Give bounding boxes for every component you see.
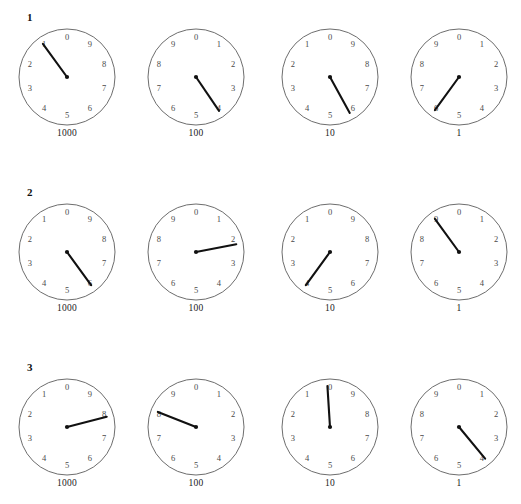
- dial-digit: 9: [351, 214, 355, 224]
- dial-digit: 0: [194, 32, 198, 42]
- dial-digit: 9: [351, 39, 355, 49]
- dial-digit: 5: [65, 110, 69, 120]
- dial-digit: 8: [157, 59, 161, 69]
- dial-digit: 6: [171, 453, 175, 463]
- dial-digit: 4: [217, 453, 222, 463]
- dial-digit: 5: [457, 110, 461, 120]
- meter-dial[interactable]: 01234567891000: [17, 377, 117, 501]
- dial-face-graphic: 0123456789: [409, 27, 509, 127]
- dial-digit: 3: [28, 258, 32, 268]
- dial-digit: 3: [28, 83, 32, 93]
- meter-dial[interactable]: 01234567891000: [17, 202, 117, 326]
- dial-digit: 7: [365, 258, 369, 268]
- dial-place-value-caption: 1: [409, 128, 509, 139]
- dial-digit: 2: [231, 234, 235, 244]
- dial-hub: [194, 425, 198, 429]
- dial-digit: 1: [42, 389, 46, 399]
- dial-digit: 3: [494, 433, 498, 443]
- meter-dial[interactable]: 01234567891000: [17, 27, 117, 151]
- dial-digit: 3: [494, 258, 498, 268]
- meter-dial[interactable]: 01234567891: [409, 377, 509, 501]
- dial-digit: 1: [305, 39, 309, 49]
- dial-digit: 9: [88, 39, 92, 49]
- meter-dial-worksheet: 1012345678910000123456789100012345678910…: [0, 0, 521, 504]
- meter-dial[interactable]: 01234567891: [409, 27, 509, 151]
- dial-digit: 1: [217, 389, 221, 399]
- dial-digit: 9: [434, 39, 438, 49]
- dial-digit: 2: [291, 234, 295, 244]
- dial-digit: 8: [365, 59, 369, 69]
- meter-dial[interactable]: 01234567891: [409, 202, 509, 326]
- meter-dial[interactable]: 012345678910: [280, 27, 380, 151]
- dial-digit: 0: [457, 382, 461, 392]
- meter-dial[interactable]: 012345678910: [280, 377, 380, 501]
- dial-digit: 4: [42, 103, 47, 113]
- dial-digit: 7: [102, 258, 106, 268]
- dial-hub: [194, 250, 198, 254]
- dial-digit: 7: [420, 433, 424, 443]
- dial-digit: 7: [420, 258, 424, 268]
- meter-dial[interactable]: 0123456789100: [146, 377, 246, 501]
- dial-hub: [457, 425, 461, 429]
- dial-hub: [328, 75, 332, 79]
- dial-digit: 1: [480, 214, 484, 224]
- meter-row: 3012345678910000123456789100012345678910…: [0, 356, 521, 504]
- dial-digit: 0: [457, 32, 461, 42]
- dial-place-value-caption: 1000: [17, 478, 117, 489]
- dial-face-graphic: 0123456789: [280, 202, 380, 302]
- dial-digit: 1: [217, 214, 221, 224]
- meter-dial[interactable]: 0123456789100: [146, 27, 246, 151]
- dial-digit: 9: [88, 389, 92, 399]
- dial-digit: 1: [42, 214, 46, 224]
- dial-digit: 3: [291, 83, 295, 93]
- dial-digit: 7: [157, 433, 161, 443]
- dial-digit: 2: [494, 59, 498, 69]
- dial-face-graphic: 0123456789: [280, 27, 380, 127]
- dial-digit: 4: [480, 103, 485, 113]
- dial-digit: 4: [217, 278, 222, 288]
- dial-digit: 6: [434, 453, 438, 463]
- meter-dial[interactable]: 0123456789100: [146, 202, 246, 326]
- dial-digit: 5: [194, 460, 198, 470]
- dial-digit: 9: [171, 389, 175, 399]
- dial-digit: 2: [291, 409, 295, 419]
- dial-digit: 6: [171, 103, 175, 113]
- dial-digit: 0: [457, 207, 461, 217]
- dial-place-value-caption: 10: [280, 303, 380, 314]
- dial-digit: 8: [157, 234, 161, 244]
- dial-digit: 8: [102, 59, 106, 69]
- dial-digit: 5: [457, 285, 461, 295]
- dial-digit: 6: [171, 278, 175, 288]
- dial-digit: 8: [420, 409, 424, 419]
- dial-hub: [65, 75, 69, 79]
- dial-digit: 7: [157, 83, 161, 93]
- meter-dial[interactable]: 012345678910: [280, 202, 380, 326]
- dial-digit: 7: [102, 433, 106, 443]
- dial-digit: 0: [194, 382, 198, 392]
- dial-digit: 2: [291, 59, 295, 69]
- dial-hub: [328, 250, 332, 254]
- dial-face-graphic: 0123456789: [17, 27, 117, 127]
- dial-digit: 4: [42, 278, 47, 288]
- dial-digit: 6: [88, 453, 92, 463]
- dial-hub: [328, 425, 332, 429]
- dial-digit: 1: [480, 39, 484, 49]
- dial-digit: 1: [217, 39, 221, 49]
- dial-digit: 7: [102, 83, 106, 93]
- dial-digit: 8: [420, 234, 424, 244]
- dial-digit: 2: [231, 59, 235, 69]
- meter-row: 1012345678910000123456789100012345678910…: [0, 6, 521, 181]
- dial-hub: [65, 250, 69, 254]
- dial-digit: 7: [365, 83, 369, 93]
- dial-digit: 6: [351, 278, 355, 288]
- row-number-label: 1: [27, 12, 33, 23]
- dial-digit: 9: [171, 214, 175, 224]
- dial-digit: 7: [157, 258, 161, 268]
- dial-digit: 5: [194, 285, 198, 295]
- dial-face-graphic: 0123456789: [146, 27, 246, 127]
- dial-digit: 3: [231, 83, 235, 93]
- dial-digit: 3: [28, 433, 32, 443]
- dial-digit: 9: [351, 389, 355, 399]
- dial-place-value-caption: 10: [280, 478, 380, 489]
- dial-digit: 8: [365, 234, 369, 244]
